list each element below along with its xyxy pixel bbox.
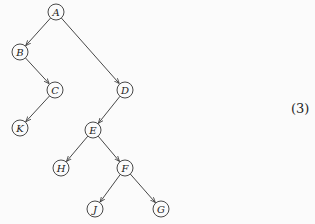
node-G: G <box>153 201 169 217</box>
node-label: E <box>88 125 97 136</box>
node-E: E <box>85 122 101 138</box>
edge-B-C <box>25 58 49 84</box>
node-label: J <box>91 204 98 215</box>
edge-E-H <box>66 136 87 161</box>
node-A: A <box>48 4 64 20</box>
node-J: J <box>87 201 103 217</box>
edge-F-J <box>100 174 120 202</box>
node-label: H <box>56 163 66 174</box>
edge-E-F <box>98 136 119 161</box>
node-label: K <box>15 123 24 134</box>
node-F: F <box>117 160 133 176</box>
edge-A-D <box>61 18 119 84</box>
node-label: G <box>157 204 165 215</box>
node-H: H <box>53 160 69 176</box>
node-label: A <box>51 7 59 18</box>
node-label: C <box>51 85 59 96</box>
node-B: B <box>12 44 28 60</box>
node-K: K <box>12 120 28 136</box>
edge-A-B <box>26 18 51 46</box>
equation-number: (3) <box>291 101 309 116</box>
binary-tree-diagram: ABCKDEHFJG <box>0 0 315 224</box>
edge-F-G <box>130 174 155 203</box>
node-label: F <box>121 163 130 174</box>
node-D: D <box>117 82 133 98</box>
edge-C-K <box>26 96 50 122</box>
edge-D-E <box>98 96 120 123</box>
node-label: D <box>120 85 129 96</box>
tree-edges <box>25 18 155 203</box>
node-C: C <box>47 82 63 98</box>
node-label: B <box>15 47 23 58</box>
